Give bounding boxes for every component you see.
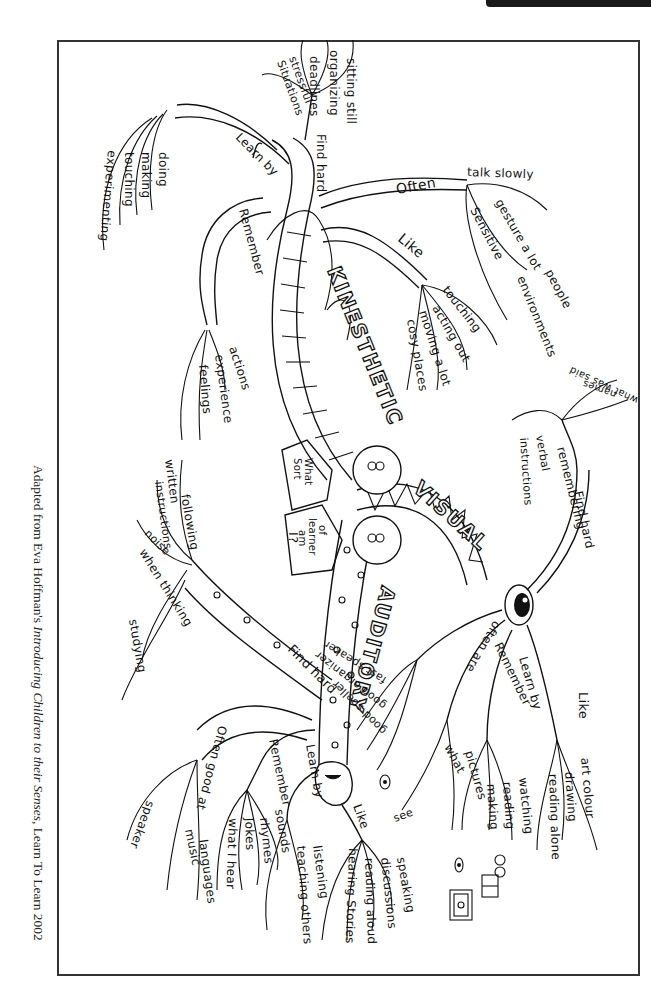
spyglass-icon xyxy=(380,775,390,789)
kin-item-people: people xyxy=(542,267,574,311)
center-text-sort: Sort xyxy=(292,458,303,480)
caption-suffix: , Learn To Learn 2002 xyxy=(31,821,46,941)
mind-map: What Sort of learner am I? KINESTHETIC V… xyxy=(57,40,640,976)
vis-item-art-colour: art colour xyxy=(578,757,597,819)
aud-learn-by-label: Learn by xyxy=(303,743,326,799)
kin-find-hard-label: Find hard xyxy=(314,134,328,192)
small-eye-icon xyxy=(455,858,463,872)
vis-item-reading: reading xyxy=(500,781,517,830)
kin-item-gesture: gesture a lot xyxy=(492,197,544,273)
aud-item-jokes: Jokes xyxy=(242,817,257,851)
goggles-icon xyxy=(495,855,505,877)
picture-frame-icon xyxy=(450,890,472,920)
vis-item-see: see xyxy=(392,806,415,825)
kinesthetic-branch xyxy=(103,40,547,480)
aud-remember-label: Remember xyxy=(266,738,294,808)
vis-item-drawing: drawing xyxy=(562,771,579,822)
kin-item-organizing: organizing xyxy=(327,50,341,116)
vis-item-instructions: instructions xyxy=(517,437,535,506)
book-icon xyxy=(482,875,498,897)
kin-often-label: Often xyxy=(395,174,437,197)
kinesthetic-title: KINESTHETIC xyxy=(322,263,408,429)
kin-item-making: making xyxy=(139,152,153,198)
aud-item-rhymes: rhymes xyxy=(257,817,276,865)
kin-item-doing: doing xyxy=(156,152,170,187)
aud-like-label: Like xyxy=(350,802,372,830)
aud-item-listening: listening xyxy=(310,844,331,899)
aud-item-languages: languages xyxy=(196,838,219,904)
eye-icon xyxy=(505,585,533,625)
vis-item-reading-alone: reading alone xyxy=(546,774,563,861)
caption-prefix: Adapted from Eva Hoffman's xyxy=(31,465,46,626)
kin-item-experimenting: experimenting xyxy=(97,150,119,242)
aud-item-reading-aloud: reading aloud xyxy=(362,858,379,945)
attribution-caption: Adapted from Eva Hoffman's Introducing C… xyxy=(26,465,50,977)
vis-item-watching: watching xyxy=(516,777,536,835)
kin-item-sitting-still: sitting still xyxy=(344,58,358,124)
vis-like-label: Like xyxy=(576,692,591,719)
kin-remember-label: Remember xyxy=(236,207,267,277)
kin-item-touching: touching xyxy=(122,152,136,207)
center-text-what: What xyxy=(303,458,314,485)
caption-book-title: Introducing Children to their Senses xyxy=(31,626,46,821)
kin-like-label: Like xyxy=(395,230,428,261)
vis-item-what-was-said: what was said xyxy=(567,365,639,407)
vis-item-verbal: verbal xyxy=(533,434,552,472)
aud-item-teaching-others: teaching others xyxy=(294,845,315,944)
aud-item-what-i-hear: what I hear xyxy=(224,818,240,890)
kin-item-talk-slowly: talk slowly xyxy=(467,165,534,181)
aud-item-sounds: sounds xyxy=(272,808,294,854)
center-text-i: I? xyxy=(286,532,301,543)
section-header-tab xyxy=(486,0,651,7)
aud-often-good-at-label: Often good at xyxy=(194,724,230,811)
